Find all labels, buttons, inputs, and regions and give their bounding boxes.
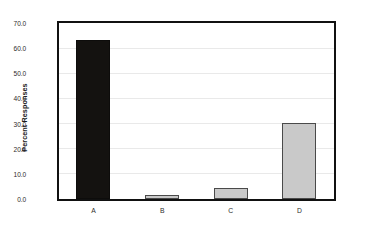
plot-inner: [59, 23, 334, 199]
bar-c: [214, 188, 248, 199]
bar-chart: Percent Responses 0.010.020.030.040.050.…: [0, 0, 365, 235]
plot-area: [57, 21, 336, 201]
x-tick-label: D: [279, 207, 319, 214]
bar-d: [282, 123, 316, 200]
bar-a: [76, 40, 110, 199]
y-axis-title-label: Percent Responses: [20, 83, 29, 151]
x-tick-label: A: [74, 207, 114, 214]
bar-b: [145, 195, 179, 199]
y-axis-title: Percent Responses: [14, 0, 34, 235]
x-tick-label: C: [211, 207, 251, 214]
x-tick-label: B: [142, 207, 182, 214]
